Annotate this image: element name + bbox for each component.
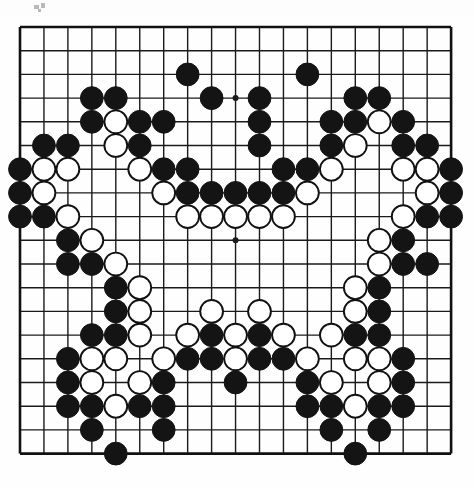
black-stone[interactable] bbox=[440, 182, 463, 205]
go-board[interactable] bbox=[0, 0, 474, 488]
black-stone[interactable] bbox=[176, 63, 199, 86]
white-stone[interactable] bbox=[33, 182, 56, 205]
white-stone[interactable] bbox=[296, 182, 319, 205]
black-stone[interactable] bbox=[296, 395, 319, 418]
black-stone[interactable] bbox=[104, 300, 127, 323]
black-stone[interactable] bbox=[80, 324, 103, 347]
black-stone[interactable] bbox=[248, 324, 271, 347]
black-stone[interactable] bbox=[200, 182, 223, 205]
black-stone[interactable] bbox=[320, 134, 343, 157]
white-stone[interactable] bbox=[344, 276, 367, 299]
black-stone[interactable] bbox=[152, 371, 175, 394]
black-stone[interactable] bbox=[392, 229, 415, 252]
white-stone[interactable] bbox=[344, 300, 367, 323]
black-stone[interactable] bbox=[224, 371, 247, 394]
black-stone[interactable] bbox=[9, 182, 32, 205]
white-stone[interactable] bbox=[57, 158, 80, 181]
black-stone[interactable] bbox=[176, 347, 199, 370]
white-stone[interactable] bbox=[224, 347, 247, 370]
black-stone[interactable] bbox=[104, 87, 127, 110]
black-stone[interactable] bbox=[128, 110, 151, 133]
black-stone[interactable] bbox=[176, 182, 199, 205]
black-stone[interactable] bbox=[272, 182, 295, 205]
white-stone[interactable] bbox=[176, 324, 199, 347]
black-stone[interactable] bbox=[104, 442, 127, 465]
black-stone[interactable] bbox=[320, 110, 343, 133]
white-stone[interactable] bbox=[368, 229, 391, 252]
white-stone[interactable] bbox=[272, 205, 295, 228]
black-stone[interactable] bbox=[200, 347, 223, 370]
black-stone[interactable] bbox=[344, 324, 367, 347]
white-stone[interactable] bbox=[320, 158, 343, 181]
black-stone[interactable] bbox=[416, 205, 439, 228]
black-stone[interactable] bbox=[57, 347, 80, 370]
white-stone[interactable] bbox=[152, 182, 175, 205]
black-stone[interactable] bbox=[9, 205, 32, 228]
white-stone[interactable] bbox=[320, 371, 343, 394]
black-stone[interactable] bbox=[416, 134, 439, 157]
black-stone[interactable] bbox=[440, 158, 463, 181]
black-stone[interactable] bbox=[128, 134, 151, 157]
black-stone[interactable] bbox=[392, 371, 415, 394]
black-stone[interactable] bbox=[248, 110, 271, 133]
black-stone[interactable] bbox=[248, 87, 271, 110]
black-stone[interactable] bbox=[368, 300, 391, 323]
white-stone[interactable] bbox=[392, 205, 415, 228]
black-stone[interactable] bbox=[272, 347, 295, 370]
white-stone[interactable] bbox=[344, 347, 367, 370]
white-stone[interactable] bbox=[200, 300, 223, 323]
white-stone[interactable] bbox=[368, 347, 391, 370]
black-stone[interactable] bbox=[392, 395, 415, 418]
black-stone[interactable] bbox=[344, 87, 367, 110]
black-stone[interactable] bbox=[296, 371, 319, 394]
black-stone[interactable] bbox=[200, 87, 223, 110]
black-stone[interactable] bbox=[152, 419, 175, 442]
white-stone[interactable] bbox=[416, 182, 439, 205]
black-stone[interactable] bbox=[320, 395, 343, 418]
white-stone[interactable] bbox=[368, 110, 391, 133]
white-stone[interactable] bbox=[57, 205, 80, 228]
black-stone[interactable] bbox=[33, 134, 56, 157]
black-stone[interactable] bbox=[368, 419, 391, 442]
black-stone[interactable] bbox=[104, 276, 127, 299]
white-stone[interactable] bbox=[104, 347, 127, 370]
black-stone[interactable] bbox=[152, 110, 175, 133]
black-stone[interactable] bbox=[104, 324, 127, 347]
black-stone[interactable] bbox=[368, 395, 391, 418]
white-stone[interactable] bbox=[80, 347, 103, 370]
black-stone[interactable] bbox=[248, 134, 271, 157]
black-stone[interactable] bbox=[9, 158, 32, 181]
white-stone[interactable] bbox=[416, 158, 439, 181]
black-stone[interactable] bbox=[57, 253, 80, 276]
black-stone[interactable] bbox=[224, 182, 247, 205]
white-stone[interactable] bbox=[368, 371, 391, 394]
white-stone[interactable] bbox=[248, 300, 271, 323]
black-stone[interactable] bbox=[344, 442, 367, 465]
white-stone[interactable] bbox=[344, 134, 367, 157]
black-stone[interactable] bbox=[392, 253, 415, 276]
black-stone[interactable] bbox=[152, 395, 175, 418]
black-stone[interactable] bbox=[440, 205, 463, 228]
black-stone[interactable] bbox=[368, 324, 391, 347]
black-stone[interactable] bbox=[80, 253, 103, 276]
black-stone[interactable] bbox=[368, 276, 391, 299]
black-stone[interactable] bbox=[368, 87, 391, 110]
white-stone[interactable] bbox=[176, 205, 199, 228]
black-stone[interactable] bbox=[33, 205, 56, 228]
black-stone[interactable] bbox=[80, 110, 103, 133]
white-stone[interactable] bbox=[104, 110, 127, 133]
white-stone[interactable] bbox=[224, 324, 247, 347]
white-stone[interactable] bbox=[200, 205, 223, 228]
white-stone[interactable] bbox=[104, 395, 127, 418]
white-stone[interactable] bbox=[296, 347, 319, 370]
white-stone[interactable] bbox=[128, 276, 151, 299]
white-stone[interactable] bbox=[248, 205, 271, 228]
black-stone[interactable] bbox=[80, 395, 103, 418]
white-stone[interactable] bbox=[80, 371, 103, 394]
black-stone[interactable] bbox=[392, 110, 415, 133]
white-stone[interactable] bbox=[128, 371, 151, 394]
black-stone[interactable] bbox=[272, 158, 295, 181]
black-stone[interactable] bbox=[57, 395, 80, 418]
black-stone[interactable] bbox=[320, 419, 343, 442]
white-stone[interactable] bbox=[152, 347, 175, 370]
